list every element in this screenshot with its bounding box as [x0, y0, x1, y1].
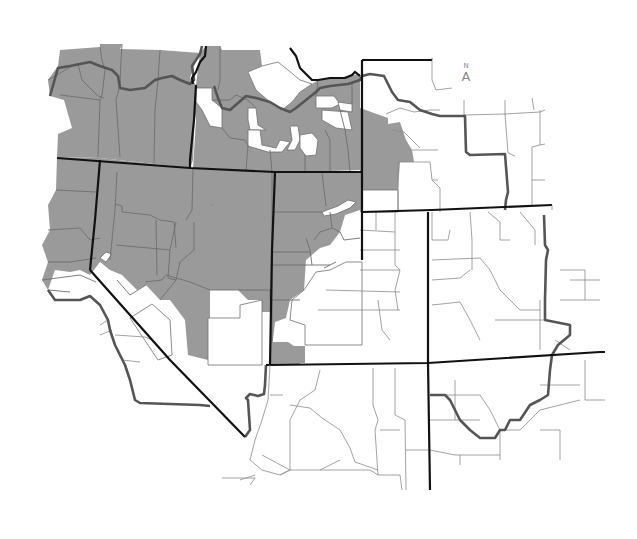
hole-nevada-south	[130, 304, 172, 360]
shaded-oregon	[48, 44, 200, 168]
map-canvas	[0, 0, 637, 539]
north-arrow-icon: A	[459, 70, 473, 83]
north-arrow: N A	[459, 62, 473, 86]
shaded-utah-south	[270, 342, 305, 363]
region-border-plains	[430, 215, 570, 438]
hole-nevada-southeast	[208, 300, 262, 365]
hole-wyoming-sw	[362, 190, 398, 212]
region-border-nevada-south	[245, 365, 266, 437]
state-border-colorado-west	[428, 212, 430, 490]
state-border-four-corners	[270, 352, 605, 365]
